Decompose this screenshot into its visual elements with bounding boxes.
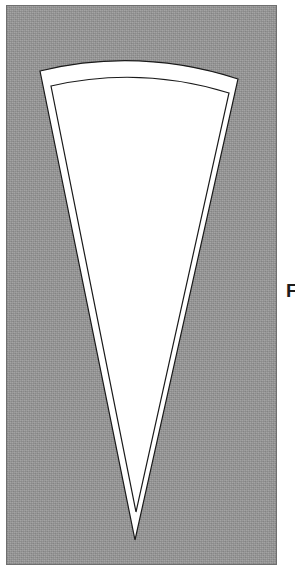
scan-noise-texture bbox=[6, 5, 277, 565]
panel-border bbox=[6, 5, 277, 565]
figure-root: F bbox=[0, 0, 295, 588]
gray-background-panel bbox=[6, 5, 277, 565]
edge-label-glyph: F bbox=[286, 281, 295, 300]
